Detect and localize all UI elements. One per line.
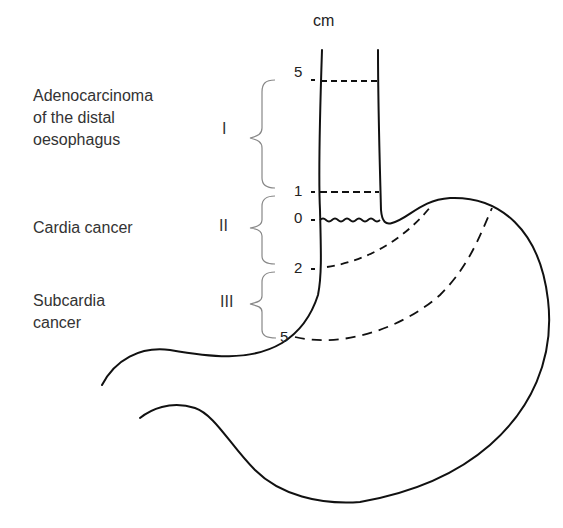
type-III-numeral: III bbox=[220, 293, 233, 311]
stomach-diagram bbox=[0, 0, 563, 528]
scale-tick-5-bottom: 5 bbox=[280, 328, 288, 345]
scale-tick-0: 0 bbox=[294, 209, 302, 226]
brace-type-III bbox=[250, 272, 276, 338]
oesophagus-right-wall bbox=[140, 50, 549, 503]
z-line-wavy bbox=[320, 219, 380, 222]
brace-type-I bbox=[250, 80, 275, 188]
type-I-label: Adenocarcinoma of the distal oesophagus bbox=[33, 85, 153, 151]
scale-tick-1: 1 bbox=[294, 182, 302, 199]
type-II-numeral: II bbox=[219, 217, 228, 235]
scale-tick-2: 2 bbox=[294, 259, 302, 276]
level-2-dashed-curve bbox=[327, 205, 432, 267]
brace-type-II bbox=[250, 196, 275, 264]
level-5-dashed-curve bbox=[295, 208, 492, 340]
type-III-label: Subcardia cancer bbox=[33, 290, 105, 334]
type-I-numeral: I bbox=[222, 120, 226, 138]
scale-tick-5-top: 5 bbox=[294, 63, 302, 80]
type-II-label: Cardia cancer bbox=[33, 217, 133, 239]
unit-label: cm bbox=[313, 12, 334, 30]
